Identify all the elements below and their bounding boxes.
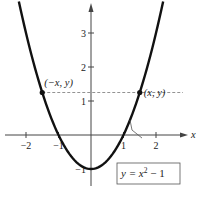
equation-label: y = x2 − 1 xyxy=(120,166,165,179)
point-label: (−x, y) xyxy=(44,77,73,89)
equation-prefix: y = x xyxy=(120,167,144,179)
x-tick-label: 1 xyxy=(121,140,126,151)
y-tick-label: 3 xyxy=(81,28,86,39)
point-marker xyxy=(40,90,45,95)
equation-suffix: − 1 xyxy=(147,167,164,179)
x-axis-arrow-icon xyxy=(180,133,188,138)
point-marker xyxy=(137,90,142,95)
chart-plot: x −2−112321−1 (−x, y)(x, y) y = x2 − 1 xyxy=(0,0,203,198)
point-label: (x, y) xyxy=(144,87,166,99)
x-tick-label: −2 xyxy=(21,140,32,151)
x-axis-label: x xyxy=(190,129,196,140)
y-axis-arrow-icon xyxy=(89,3,94,12)
y-tick-label: 2 xyxy=(81,62,86,73)
axes: x xyxy=(5,3,196,186)
y-tick-label: 1 xyxy=(81,96,86,107)
points: (−x, y)(x, y) xyxy=(40,77,166,99)
x-tick-label: 2 xyxy=(154,140,159,151)
